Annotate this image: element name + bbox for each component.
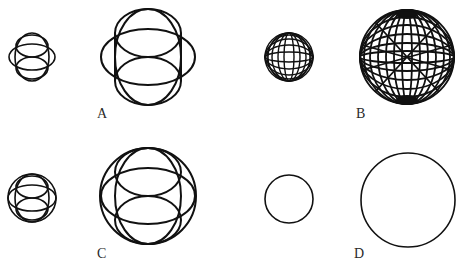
panel-b-label: B (356, 106, 365, 122)
panel-b-large-shape (360, 10, 454, 104)
panel-c-small-shape (8, 174, 56, 222)
panel-a-label: A (97, 106, 107, 122)
panel-c-large-shape (100, 148, 196, 244)
panel-a-large-shape (101, 9, 195, 105)
figure-drawing (0, 0, 463, 269)
figure: A B C D (0, 0, 463, 269)
panel-a-small-shape (9, 33, 55, 81)
panel-d-label: D (354, 246, 364, 262)
panel-d-large-shape (361, 153, 455, 247)
panel-b-small-shape (265, 33, 313, 81)
panel-c-label: C (97, 246, 106, 262)
panel-d-small-shape (265, 175, 313, 223)
